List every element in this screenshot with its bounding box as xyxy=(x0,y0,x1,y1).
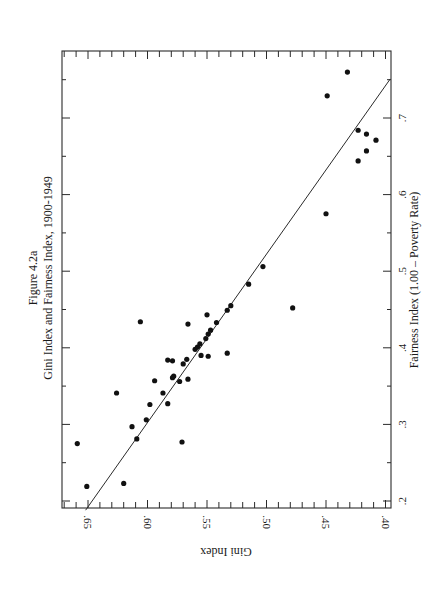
gini-tick-label: .45 xyxy=(320,515,332,529)
data-point xyxy=(114,390,119,395)
fairness-axis-title: Fairness Index (1.00 – Poverty Rate) xyxy=(407,192,421,369)
data-point xyxy=(373,138,378,143)
data-point xyxy=(138,319,143,324)
gini-axis-title: Gini Index xyxy=(200,545,252,559)
data-point xyxy=(290,305,295,310)
data-point xyxy=(364,131,369,136)
gini-axis-tick-labels: .65.60.55.50.45.40 xyxy=(82,515,392,529)
data-point xyxy=(345,69,350,74)
gini-tick-label: .50 xyxy=(261,515,273,529)
data-point xyxy=(177,379,182,384)
data-points xyxy=(75,69,379,489)
data-point xyxy=(203,336,208,341)
gini-tick-label: .60 xyxy=(142,515,154,529)
data-point xyxy=(75,441,80,446)
fairness-tick-label: .7 xyxy=(396,113,408,122)
data-point xyxy=(185,377,190,382)
data-point xyxy=(228,303,233,308)
scatter-chart: Figure 4.2a Gini Index and Fairness Inde… xyxy=(0,0,442,596)
gini-tick-label: .65 xyxy=(82,515,94,529)
data-point xyxy=(356,128,361,133)
data-point xyxy=(325,93,330,98)
data-point xyxy=(171,374,176,379)
fairness-tick-label: .3 xyxy=(396,420,408,429)
data-point xyxy=(364,148,369,153)
data-point xyxy=(198,353,203,358)
gini-tick-label: .55 xyxy=(201,515,213,529)
data-point xyxy=(121,481,126,486)
axis-ticks xyxy=(62,51,391,508)
data-point xyxy=(170,358,175,363)
figure-label: Figure 4.2a xyxy=(26,250,40,305)
data-point xyxy=(225,351,230,356)
data-point xyxy=(356,158,361,163)
data-point xyxy=(160,390,165,395)
data-point xyxy=(165,357,170,362)
data-point xyxy=(84,484,89,489)
data-point xyxy=(204,312,209,317)
figure-title-block: Figure 4.2a Gini Index and Fairness Inde… xyxy=(26,176,55,379)
data-point xyxy=(185,321,190,326)
plot-frame xyxy=(62,51,391,508)
data-point xyxy=(147,402,152,407)
data-point xyxy=(246,282,251,287)
data-point xyxy=(134,436,139,441)
data-point xyxy=(208,328,213,333)
data-point xyxy=(179,439,184,444)
data-point xyxy=(323,211,328,216)
data-point xyxy=(225,308,230,313)
gini-tick-label: .40 xyxy=(380,515,392,529)
data-point xyxy=(181,361,186,366)
data-point xyxy=(129,424,134,429)
regression-line xyxy=(86,79,391,510)
fairness-tick-label: .2 xyxy=(396,497,408,505)
data-point xyxy=(260,264,265,269)
data-point xyxy=(214,320,219,325)
figure-title: Gini Index and Fairness Index, 1900-1949 xyxy=(41,176,55,379)
data-point xyxy=(165,401,170,406)
data-point xyxy=(152,378,157,383)
data-point xyxy=(144,417,149,422)
data-point xyxy=(206,354,211,359)
data-point xyxy=(184,357,189,362)
data-point xyxy=(197,341,202,346)
